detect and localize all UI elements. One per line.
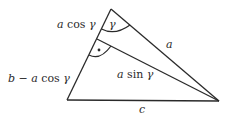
label-side-a: a (166, 38, 173, 51)
triangle-diagram: γ a cos γ b − a cos γ a a sin γ c (0, 0, 230, 117)
gamma-angle-arc (102, 25, 131, 32)
label-a-sin-gamma: a sin γ (117, 68, 154, 81)
label-side-c: c (139, 103, 145, 116)
label-b-minus-a-cos-gamma: b − a cos γ (8, 72, 70, 85)
side-c (67, 100, 219, 101)
label-a-cos-gamma: a cos γ (57, 18, 96, 31)
right-angle-dot-icon (98, 49, 101, 52)
label-gamma: γ (109, 18, 116, 31)
